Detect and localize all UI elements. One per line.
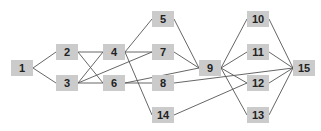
network-diagram: 123465781491011121315	[0, 0, 321, 131]
edge-9-10	[221, 19, 247, 68]
edge-10-15	[269, 19, 293, 68]
node-8: 8	[152, 75, 174, 91]
node-14: 14	[152, 107, 174, 123]
node-6: 6	[103, 75, 125, 91]
edge-4-14	[125, 52, 152, 115]
node-12: 12	[247, 75, 269, 91]
node-7: 7	[152, 44, 174, 60]
node-2: 2	[56, 44, 78, 60]
node-3: 3	[56, 75, 78, 91]
edge-5-9	[174, 19, 199, 68]
node-4: 4	[103, 44, 125, 60]
node-11: 11	[247, 44, 269, 60]
edge-14-12	[174, 83, 247, 115]
edge-4-5	[125, 19, 152, 52]
node-5: 5	[152, 11, 174, 27]
edge-1-3	[33, 68, 56, 83]
node-9: 9	[199, 60, 221, 76]
node-13: 13	[247, 107, 269, 123]
edge-1-2	[33, 52, 56, 68]
node-10: 10	[247, 11, 269, 27]
node-1: 1	[11, 60, 33, 76]
node-15: 15	[293, 60, 315, 76]
